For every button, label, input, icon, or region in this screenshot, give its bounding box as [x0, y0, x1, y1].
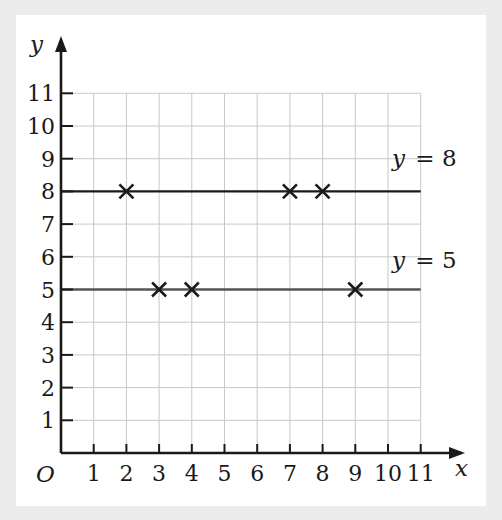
x-axis-label: x [455, 455, 468, 481]
y-tick-label: 1 [41, 408, 55, 433]
y-axis-label: y [29, 31, 44, 57]
y-tick-label: 10 [27, 114, 55, 139]
y-tick-label: 6 [41, 245, 55, 270]
y-tick-label: 5 [41, 278, 55, 303]
x-tick-label: 2 [119, 461, 133, 486]
x-tick-label: 9 [348, 461, 362, 486]
x-tick-label: 11 [407, 461, 435, 486]
x-tick-label: 3 [152, 461, 166, 486]
svg-text:y: y [391, 145, 406, 171]
line-label-y5: y = 5 [391, 247, 457, 273]
x-tick-label: 5 [218, 461, 232, 486]
y-tick-label: 7 [41, 212, 55, 237]
y-axis-arrow-icon [55, 36, 67, 52]
y-tick-label: 2 [41, 376, 55, 401]
data-points [119, 184, 362, 296]
coordinate-grid-chart: 12345678910111234567891011 y x O y = 8 y… [0, 0, 502, 520]
y-tick-label: 8 [41, 179, 55, 204]
x-tick-label: 1 [87, 461, 101, 486]
x-tick-label: 4 [185, 461, 199, 486]
horizontal-lines [61, 191, 421, 289]
svg-text:= 5: = 5 [408, 247, 457, 273]
y-tick-label: 11 [27, 81, 55, 106]
x-tick-label: 8 [316, 461, 330, 486]
y-tick-label: 9 [41, 147, 55, 172]
x-tick-label: 10 [374, 461, 402, 486]
x-tick-label: 7 [283, 461, 297, 486]
svg-text:= 8: = 8 [408, 145, 457, 171]
svg-text:y: y [391, 247, 406, 273]
gridlines [61, 93, 421, 453]
y-tick-label: 3 [41, 343, 55, 368]
origin-label: O [36, 461, 55, 487]
line-label-y8: y = 8 [391, 145, 457, 171]
x-tick-label: 6 [250, 461, 264, 486]
y-tick-label: 4 [41, 310, 55, 335]
tick-labels: 12345678910111234567891011 [27, 81, 435, 486]
